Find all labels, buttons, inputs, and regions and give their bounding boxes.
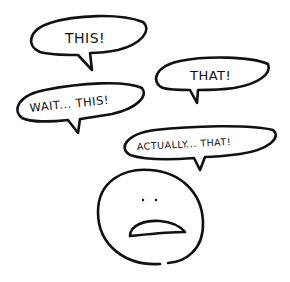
left-eye-icon [142,199,144,201]
frown-mouth-icon [130,221,185,236]
right-eye-icon [155,199,157,201]
bubble-text-that: THAT! [189,68,231,83]
illustration: THIS! THAT! WAIT... THIS! ACTUALLY... TH… [0,0,290,282]
bubble-text-this: THIS! [64,30,105,46]
worried-face [98,170,203,264]
